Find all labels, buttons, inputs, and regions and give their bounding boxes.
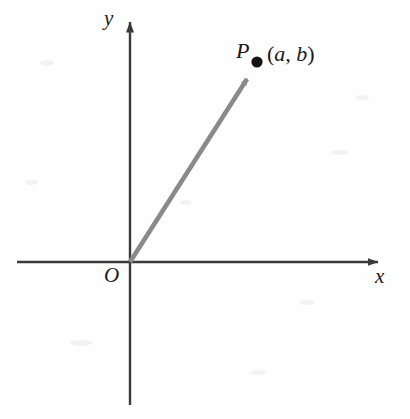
position-vector-op [130, 79, 247, 262]
coord-a: a [274, 41, 285, 66]
point-p-marker [251, 56, 262, 67]
x-axis-label: x [375, 266, 384, 287]
paren-close: ) [307, 41, 314, 66]
y-axis-label: y [104, 8, 113, 29]
point-p-coordinates-label: (a, b) [267, 43, 315, 65]
point-p-label: P [236, 40, 249, 62]
figure-canvas [0, 0, 410, 419]
origin-label: O [104, 265, 119, 286]
coord-comma: , [285, 41, 296, 66]
coord-b: b [296, 41, 307, 66]
coordinate-plane-figure: y x O P (a, b) [0, 0, 410, 419]
